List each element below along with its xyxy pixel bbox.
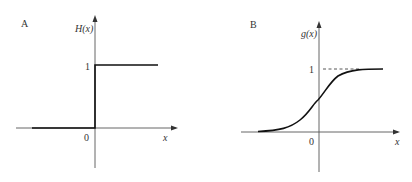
panel-a-letter: A [21, 18, 29, 29]
sigmoid-curve [258, 69, 383, 132]
figure: A H(x) 1 0 x B g(x) 1 0 x [0, 0, 412, 182]
panel-b-letter: B [250, 19, 257, 30]
origin-label: 0 [309, 136, 314, 147]
tick-one: 1 [309, 64, 314, 75]
x-axis-arrow-icon [393, 130, 400, 135]
y-axis-arrow-icon [317, 21, 322, 28]
x-axis-arrow-icon [171, 126, 178, 131]
x-axis-label: x [394, 136, 400, 147]
tick-one: 1 [85, 61, 90, 72]
origin-label: 0 [84, 132, 89, 143]
x-axis-label: x [162, 132, 168, 143]
y-axis-label: H(x) [74, 23, 94, 35]
panel-b: B g(x) 1 0 x [241, 19, 400, 172]
y-axis-label: g(x) [301, 28, 318, 40]
step-curve [32, 65, 158, 128]
y-axis-arrow-icon [93, 15, 98, 22]
panel-a: A H(x) 1 0 x [16, 15, 178, 168]
